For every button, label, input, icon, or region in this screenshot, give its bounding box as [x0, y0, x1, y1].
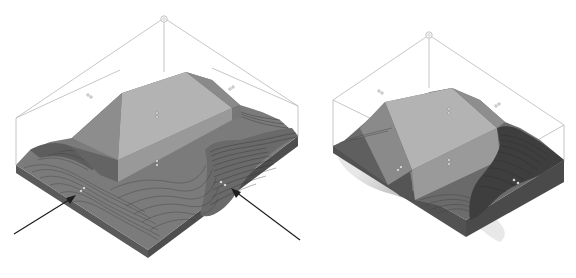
marker-icon: [378, 90, 383, 94]
marker-icon: [495, 103, 500, 107]
marker-icon: [229, 86, 234, 90]
right-pointer-arrow: [231, 188, 300, 240]
right-compass-icon: [426, 32, 432, 38]
right-view: [333, 32, 564, 242]
left-compass-icon: [161, 16, 167, 22]
figure-canvas: [0, 0, 576, 278]
left-pointer-arrow: [14, 195, 76, 234]
left-view: [14, 16, 300, 258]
marker-icon: [87, 94, 92, 98]
